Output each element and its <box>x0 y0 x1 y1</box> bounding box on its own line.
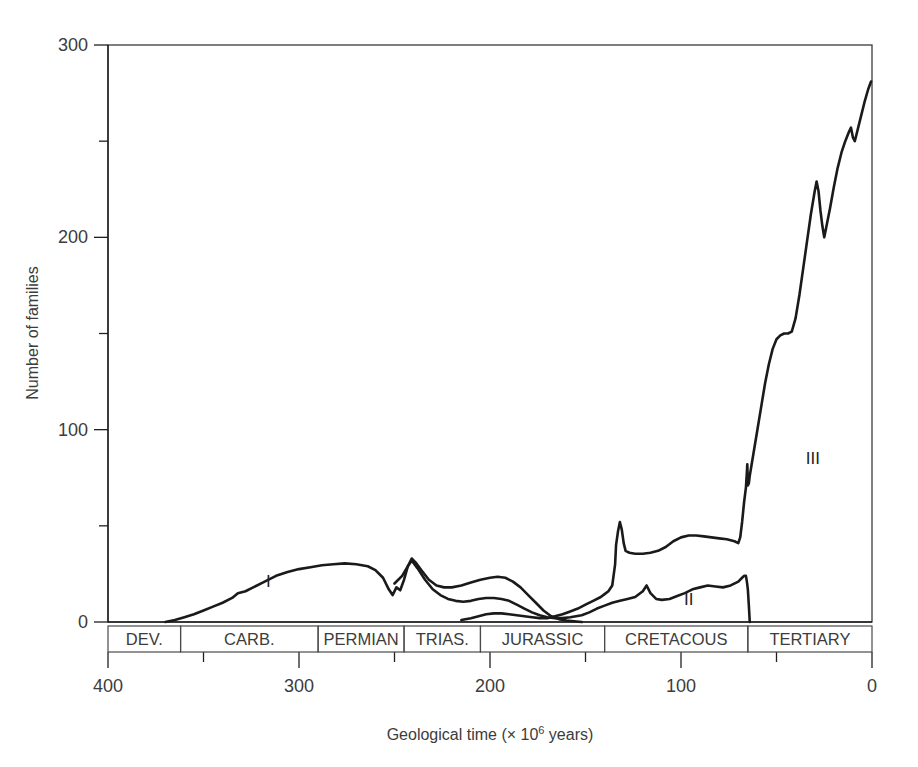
curve-II <box>395 560 750 622</box>
curve-labels: IIIIII <box>266 449 820 608</box>
y-axis: 0100200300 <box>58 35 872 632</box>
period-band-row: DEV.CARB.PERMIANTRIAS.JURASSICCRETACOUST… <box>108 626 872 652</box>
curve-label-III: III <box>806 449 820 468</box>
data-curves <box>165 82 871 622</box>
period-band-label: DEV. <box>126 630 163 648</box>
curve-label-I: I <box>266 572 271 591</box>
period-band-label: PERMIAN <box>323 630 398 648</box>
plot-frame <box>108 45 872 622</box>
x-tick-label: 200 <box>475 676 505 696</box>
figure-container: 0100200300 4003002001000 DEV.CARB.PERMIA… <box>0 0 918 767</box>
period-band-label: TRIAS. <box>416 630 469 648</box>
y-tick-label: 300 <box>58 35 88 55</box>
period-band-label: CARB. <box>224 630 274 648</box>
curve-label-II: II <box>684 590 693 609</box>
x-tick-label: 100 <box>666 676 696 696</box>
y-axis-title: Number of families <box>24 266 41 399</box>
y-tick-label: 100 <box>58 420 88 440</box>
curve-I <box>165 559 581 622</box>
curve-III <box>461 82 871 621</box>
period-band-label: CRETACOUS <box>625 630 727 648</box>
y-tick-label: 0 <box>78 612 88 632</box>
x-axis-title-prefix: Geological time (× 10 <box>387 726 539 743</box>
x-tick-label: 400 <box>93 676 123 696</box>
x-axis: 4003002001000 <box>93 652 877 696</box>
geological-families-chart: 0100200300 4003002001000 DEV.CARB.PERMIA… <box>0 0 918 767</box>
x-tick-label: 300 <box>284 676 314 696</box>
period-band-label: JURASSIC <box>502 630 584 648</box>
y-tick-label: 200 <box>58 227 88 247</box>
period-band-label: TERTIARY <box>769 630 850 648</box>
x-axis-title-suffix: years) <box>544 726 593 743</box>
x-tick-label: 0 <box>867 676 877 696</box>
x-axis-title: Geological time (× 106 years) <box>387 724 594 743</box>
